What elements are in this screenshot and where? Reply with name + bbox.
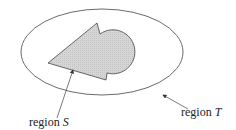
region-s-label: region S: [29, 115, 69, 129]
region-t-label: region T: [181, 105, 223, 119]
region-s-shape: [48, 23, 135, 80]
region-s-var: S: [63, 115, 69, 129]
region-diagram: region S region T: [0, 0, 236, 130]
region-s-arrow: [57, 70, 73, 118]
region-t-var: T: [215, 105, 223, 119]
